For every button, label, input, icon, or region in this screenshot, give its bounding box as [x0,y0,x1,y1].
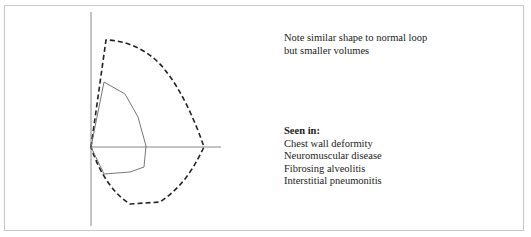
note-line-1: Note similar shape to normal loop [284,31,427,44]
seen-in-list: Seen in: Chest wall deformity Neuromuscu… [284,125,382,188]
seen-in-heading: Seen in: [284,125,382,138]
seen-in-item: Chest wall deformity [284,138,382,151]
normal-loop-dashed [91,40,204,204]
flow-volume-diagram [0,0,531,237]
note-line-2: but smaller volumes [284,44,427,57]
seen-in-item: Interstitial pneumonitis [284,175,382,188]
note-text: Note similar shape to normal loop but sm… [284,31,427,57]
restrictive-loop-solid [91,82,146,174]
seen-in-item: Neuromuscular disease [284,150,382,163]
seen-in-item: Fibrosing alveolitis [284,163,382,176]
